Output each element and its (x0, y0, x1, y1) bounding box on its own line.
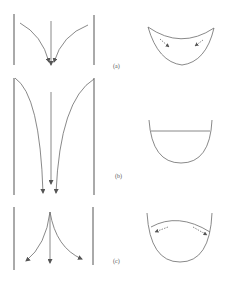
right-boundary-arrow-icon (56, 79, 94, 193)
left-converging-arrow-icon (20, 23, 49, 62)
panel-c-label: (c) (113, 258, 120, 264)
inward-arrow-left-icon (160, 39, 169, 47)
right-diverging-arrow-icon (50, 212, 82, 259)
panel-c-surface (147, 213, 212, 262)
panel-a-surface (148, 27, 214, 65)
left-boundary-arrow-icon (15, 78, 43, 193)
sagging-surface-icon (148, 27, 214, 39)
bowl-outline-icon (147, 213, 212, 262)
inward-arrow-right-icon (195, 40, 203, 46)
left-diverging-arrow-icon (26, 212, 50, 261)
panel-b-flow (14, 78, 94, 195)
right-converging-arrow-icon (54, 25, 88, 62)
panel-a-label: (a) (113, 63, 120, 69)
bowl-outline-icon (149, 120, 212, 163)
panel-c-flow (14, 207, 93, 270)
panel-b-surface (149, 120, 212, 163)
panel-a-flow (14, 14, 94, 65)
diagram-canvas (0, 0, 225, 284)
outward-arrow-right-icon (193, 227, 207, 235)
panel-b-label: (b) (115, 173, 122, 179)
outward-arrow-left-icon (155, 227, 168, 232)
